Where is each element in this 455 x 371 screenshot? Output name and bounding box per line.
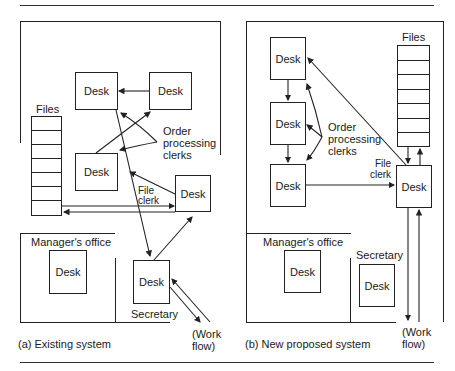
flow-arrows <box>0 0 455 371</box>
